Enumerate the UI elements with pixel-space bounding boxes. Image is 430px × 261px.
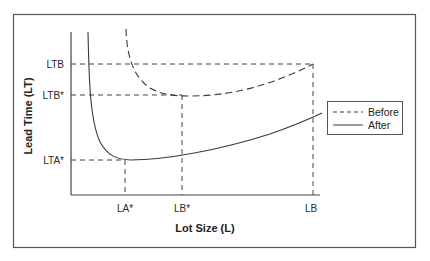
x-tick-lb-star: LB* [174, 203, 190, 214]
reference-lines [71, 64, 313, 195]
before-curve [126, 29, 313, 96]
x-tick-la-star: LA* [117, 203, 133, 214]
y-axis-title: Lead Time (LT) [22, 77, 34, 155]
y-tick-ltb-star: LTB* [43, 90, 65, 101]
legend-after-label: After [368, 119, 391, 131]
lead-time-diagram: LTB LTB* LTA* LA* LB* LB Lot Size (L) Le… [0, 0, 430, 261]
legend: Before After [328, 102, 403, 135]
y-tick-lta-star: LTA* [43, 155, 64, 166]
x-axis-title: Lot Size (L) [175, 222, 235, 234]
y-tick-ltb: LTB [46, 59, 64, 70]
x-tick-lb: LB [305, 203, 318, 214]
legend-before-label: Before [368, 106, 399, 118]
